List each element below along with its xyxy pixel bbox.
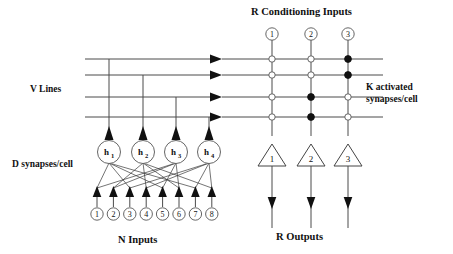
output-triangle-label: 1 <box>270 154 275 164</box>
input-stems-group <box>93 186 216 207</box>
input-stem-arrowhead <box>142 186 151 197</box>
fanout-edges-group <box>97 163 212 188</box>
input-node-label: 4 <box>144 210 148 219</box>
output-layer-group: 123 <box>258 144 362 228</box>
label-d-synapses: D synapses/cell <box>12 159 73 169</box>
fanout-edge <box>97 163 176 188</box>
hidden-node-h1: h 1 <box>98 141 121 164</box>
v-line-3-arrowhead <box>210 93 222 102</box>
input-node-6: 6 <box>173 208 185 220</box>
riser-h4-arrowhead <box>205 126 214 140</box>
synapse-open-r2-c1 <box>269 72 275 78</box>
hidden-node-h4-label: h <box>204 147 209 157</box>
synapse-open-r3-c3 <box>345 94 351 100</box>
conditioning-node-label: 1 <box>270 30 274 39</box>
riser-h2-arrowhead <box>139 126 148 140</box>
input-node-4: 4 <box>140 208 152 220</box>
output-node-3: 3 <box>334 144 362 228</box>
hidden-node-h1-label: h <box>104 147 109 157</box>
input-node-7: 7 <box>189 208 201 220</box>
conditioning-layer-group: 123 <box>266 28 354 40</box>
hidden-node-h1-sub: 1 <box>111 152 114 159</box>
fanout-edge <box>109 163 130 188</box>
conditioning-node-label: 3 <box>346 30 350 39</box>
hidden-node-h2: h 2 <box>132 141 155 164</box>
conditioning-columns-group <box>272 40 348 136</box>
input-stem-arrowhead <box>175 186 184 197</box>
input-node-label: 7 <box>193 210 197 219</box>
input-node-label: 8 <box>210 210 214 219</box>
hidden-layer-group: h 1 h 2 h 3 h 4 <box>98 141 221 164</box>
label-v-lines: V Lines <box>30 84 62 94</box>
synapse-matrix-group <box>269 56 352 121</box>
input-node-label: 3 <box>128 210 132 219</box>
fanout-edge <box>209 163 212 188</box>
conditioning-node-label: 2 <box>309 30 313 39</box>
output-arrowhead <box>307 197 316 209</box>
synapse-open-r4-c3 <box>345 114 351 120</box>
input-node-label: 5 <box>161 210 165 219</box>
riser-h3-arrowhead <box>172 126 181 140</box>
output-arrowhead <box>344 197 353 209</box>
title-conditioning-inputs: R Conditioning Inputs <box>251 6 352 17</box>
hidden-node-h2-label: h <box>138 147 143 157</box>
synapse-open-r1-c2 <box>308 56 314 62</box>
hidden-node-h4: h 4 <box>198 141 221 164</box>
input-stem-arrowhead <box>208 186 217 197</box>
input-node-3: 3 <box>124 208 136 220</box>
conditioning-node-1: 1 <box>266 28 278 40</box>
label-k-activated-line1: K activated <box>366 82 413 92</box>
conditioning-node-2: 2 <box>305 28 317 40</box>
output-triangle-label: 2 <box>309 154 314 164</box>
input-stem-arrowhead <box>109 186 118 197</box>
title-n-inputs: N Inputs <box>118 234 157 245</box>
output-node-2: 2 <box>297 144 325 228</box>
input-node-label: 2 <box>111 210 115 219</box>
synapse-open-r2-c2 <box>308 72 314 78</box>
input-stem-arrowhead <box>191 186 200 197</box>
synapse-filled-r2-c3 <box>345 72 352 79</box>
input-stem-arrowhead <box>126 186 135 197</box>
input-node-5: 5 <box>156 208 168 220</box>
output-node-1: 1 <box>258 144 286 228</box>
output-arrowhead <box>268 197 277 209</box>
v-line-1-arrowhead <box>210 55 222 64</box>
network-architecture-diagram: R Conditioning Inputs N Inputs R Outputs… <box>0 0 453 254</box>
label-k-activated-line2: synapses/cell <box>366 94 418 104</box>
v-line-4-arrowhead <box>210 113 222 122</box>
v-lines-group <box>85 55 383 122</box>
input-layer-group: 12345678 <box>91 208 218 220</box>
synapse-filled-r1-c3 <box>345 56 352 63</box>
input-node-label: 6 <box>177 210 181 219</box>
v-line-2-arrowhead <box>210 71 222 80</box>
input-node-1: 1 <box>91 208 103 220</box>
hidden-node-h3-label: h <box>171 147 176 157</box>
hidden-riser-group <box>105 59 214 140</box>
hidden-node-h2-sub: 2 <box>145 152 148 159</box>
fanout-edge <box>97 163 109 188</box>
diagram-canvas: R Conditioning Inputs N Inputs R Outputs… <box>0 0 453 254</box>
synapse-filled-r3-c2 <box>308 94 315 101</box>
hidden-node-h3: h 3 <box>165 141 188 164</box>
input-node-label: 1 <box>95 210 99 219</box>
riser-h1-arrowhead <box>105 126 114 140</box>
input-node-8: 8 <box>206 208 218 220</box>
title-r-outputs: R Outputs <box>276 231 323 242</box>
conditioning-node-3: 3 <box>342 28 354 40</box>
input-node-2: 2 <box>107 208 119 220</box>
synapse-open-r1-c1 <box>269 56 275 62</box>
synapse-open-r4-c1 <box>269 114 275 120</box>
output-triangle-label: 3 <box>346 154 351 164</box>
synapse-filled-r4-c2 <box>308 114 315 121</box>
input-stem-arrowhead <box>158 186 167 197</box>
input-stem-arrowhead <box>93 186 102 197</box>
synapse-open-r3-c1 <box>269 94 275 100</box>
fanout-edge <box>146 163 209 188</box>
